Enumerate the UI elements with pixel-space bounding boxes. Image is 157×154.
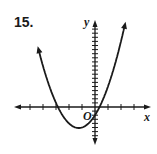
- parabola-curve: [39, 25, 125, 128]
- x-axis-label: x: [143, 110, 150, 124]
- curve-right-arrow-icon: [121, 22, 127, 30]
- curve-left-arrow-icon: [37, 46, 43, 54]
- origin-label: O: [83, 109, 92, 123]
- y-axis-label: y: [82, 15, 90, 29]
- parabola-graph: y x O: [0, 0, 157, 154]
- axes: [18, 24, 148, 141]
- x-axis-right-arrow-icon: [144, 105, 151, 110]
- x-axis-left-arrow-icon: [14, 105, 21, 110]
- y-axis-down-arrow-icon: [93, 138, 98, 145]
- y-axis-up-arrow-icon: [93, 20, 98, 27]
